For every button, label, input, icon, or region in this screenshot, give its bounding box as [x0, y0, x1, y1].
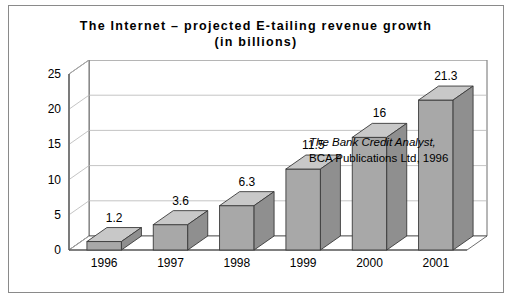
x-axis-label-1997: 1997 — [146, 257, 196, 270]
y-axis-tick-15: 15 — [31, 138, 61, 150]
x-axis-label-2001: 2001 — [411, 257, 461, 270]
x-axis-label-1996: 1996 — [79, 257, 129, 270]
plot-area: 1.219963.619976.3199811.5199916200021.32… — [27, 60, 489, 280]
bar-value-label-2000: 16 — [355, 107, 405, 120]
chart-title: The Internet – projected E-tailing reven… — [9, 18, 503, 50]
bar-value-label-1996: 1.2 — [89, 212, 139, 225]
source-annotation: The Bank Credit Analyst, BCA Publication… — [309, 134, 479, 166]
bar-1998 — [220, 192, 274, 250]
bar-value-label-2001: 21.3 — [421, 70, 471, 83]
x-axis-label-2000: 2000 — [345, 257, 395, 270]
y-axis-tick-25: 25 — [31, 68, 61, 80]
bar-1999 — [286, 155, 340, 250]
source-annotation-line-2: BCA Publications Ltd, 1996 — [309, 150, 479, 166]
plot-left-wall — [69, 60, 89, 250]
y-axis-tick-5: 5 — [31, 209, 61, 221]
figure-frame: The Internet – projected E-tailing reven… — [8, 5, 504, 293]
x-axis-label-1998: 1998 — [212, 257, 262, 270]
x-axis-label-1999: 1999 — [278, 257, 328, 270]
y-axis-tick-10: 10 — [31, 174, 61, 186]
bar-value-label-1997: 3.6 — [156, 195, 206, 208]
source-annotation-line-1: The Bank Credit Analyst, — [309, 134, 479, 150]
chart-canvas — [27, 60, 489, 280]
y-axis-tick-0: 0 — [31, 244, 61, 256]
bar-2001 — [419, 86, 473, 250]
y-axis-tick-20: 20 — [31, 103, 61, 115]
bar-value-label-1998: 6.3 — [222, 176, 272, 189]
